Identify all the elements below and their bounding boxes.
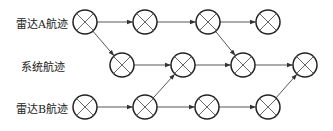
- track-node-s1: [171, 53, 195, 77]
- edge-arrow: [153, 74, 175, 98]
- track-node-b3: [256, 95, 280, 119]
- track-node-a0: [73, 10, 97, 34]
- track-node-a3: [256, 10, 280, 34]
- edge-arrow: [276, 74, 297, 98]
- track-node-a1: [133, 10, 157, 34]
- track-node-b2: [195, 95, 219, 119]
- track-node-b1: [133, 95, 157, 119]
- track-fusion-diagram: [0, 0, 333, 131]
- edge-arrow: [216, 31, 236, 55]
- track-node-a2: [196, 10, 220, 34]
- track-node-s2: [231, 53, 255, 77]
- track-node-s0: [110, 53, 134, 77]
- edge-arrow: [93, 31, 114, 55]
- track-node-s3: [293, 53, 317, 77]
- track-node-b0: [73, 95, 97, 119]
